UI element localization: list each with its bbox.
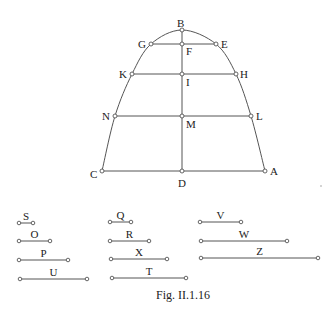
point-marker	[180, 42, 184, 46]
segment-x: X	[109, 246, 169, 261]
point-label: B	[177, 17, 184, 29]
segment-endpoint	[199, 256, 203, 260]
parabola-diagram: BFGEIKHMNLDCA SOPUQRXTVWZ Fig. II.1.16	[0, 0, 332, 313]
point-marker	[180, 114, 184, 118]
point-k: K	[119, 68, 134, 80]
point-label: L	[256, 110, 263, 122]
point-marker	[100, 169, 104, 173]
segment-endpoint	[285, 239, 289, 243]
point-e: E	[214, 38, 228, 50]
segment-s: S	[17, 210, 35, 225]
figure-container: BFGEIKHMNLDCA SOPUQRXTVWZ Fig. II.1.16	[0, 0, 332, 313]
segment-endpoint	[17, 239, 21, 243]
segment-u: U	[18, 266, 89, 281]
reference-segments: SOPUQRXTVWZ	[17, 185, 321, 281]
segment-endpoint	[110, 276, 114, 280]
segment-label: Q	[117, 209, 125, 221]
point-label: G	[138, 38, 146, 50]
segment-r: R	[108, 228, 151, 243]
segment-label: P	[40, 247, 46, 259]
point-n: N	[102, 110, 117, 122]
point-d: D	[178, 169, 186, 189]
segment-endpoint	[31, 221, 35, 225]
segment-label: U	[50, 266, 58, 278]
chord-lines	[102, 30, 265, 171]
segment-endpoint	[147, 239, 151, 243]
point-marker	[180, 72, 184, 76]
point-c: C	[90, 168, 104, 180]
point-a: A	[263, 165, 278, 177]
point-h: H	[234, 68, 248, 80]
segment-t: T	[110, 265, 188, 280]
segment-label: X	[135, 246, 143, 258]
segment-p: P	[17, 247, 70, 262]
segment-endpoint	[108, 220, 112, 224]
segment-label: V	[217, 209, 225, 221]
point-marker	[130, 72, 134, 76]
segment-z: Z	[199, 245, 320, 260]
segment-endpoint	[199, 239, 203, 243]
segment-q: Q	[108, 209, 133, 224]
point-label: A	[270, 165, 278, 177]
point-label: C	[90, 168, 97, 180]
point-label: E	[221, 38, 228, 50]
point-marker	[214, 42, 218, 46]
point-marker	[149, 42, 153, 46]
arch-curve-path	[102, 30, 265, 171]
segment-label: T	[146, 265, 153, 277]
point-marker	[249, 114, 253, 118]
point-marker	[263, 169, 267, 173]
segment-label: R	[126, 228, 134, 240]
segment-label: O	[31, 228, 39, 240]
point-label: D	[178, 177, 186, 189]
arch-curve	[102, 30, 265, 171]
point-marker	[234, 72, 238, 76]
segment-label: Z	[256, 245, 263, 257]
point-l: L	[249, 110, 263, 122]
segment-w: W	[199, 228, 289, 243]
segment-endpoint	[17, 221, 21, 225]
point-label: N	[102, 110, 110, 122]
point-g: G	[138, 38, 153, 50]
segment-endpoint	[48, 239, 52, 243]
labeled-points: BFGEIKHMNLDCA	[90, 17, 278, 189]
point-marker	[180, 169, 184, 173]
point-label: H	[240, 68, 248, 80]
segment-endpoint	[316, 256, 320, 260]
segment-endpoint	[85, 277, 89, 281]
point-label: M	[186, 118, 196, 130]
segment-o: O	[17, 228, 52, 243]
segment-endpoint	[239, 220, 243, 224]
segment-label: W	[239, 228, 250, 240]
point-label: F	[186, 45, 192, 57]
stray-dot	[320, 185, 321, 186]
segment-endpoint	[129, 220, 133, 224]
segment-endpoint	[184, 276, 188, 280]
point-marker	[113, 114, 117, 118]
segment-endpoint	[108, 239, 112, 243]
segment-endpoint	[66, 258, 70, 262]
segment-label: S	[23, 210, 29, 222]
segment-endpoint	[165, 257, 169, 261]
segment-endpoint	[18, 277, 22, 281]
figure-caption: Fig. II.1.16	[156, 288, 210, 302]
segment-v: V	[198, 209, 243, 224]
point-label: I	[186, 76, 190, 88]
segment-endpoint	[198, 220, 202, 224]
segment-endpoint	[109, 257, 113, 261]
point-label: K	[119, 68, 127, 80]
segment-endpoint	[17, 258, 21, 262]
